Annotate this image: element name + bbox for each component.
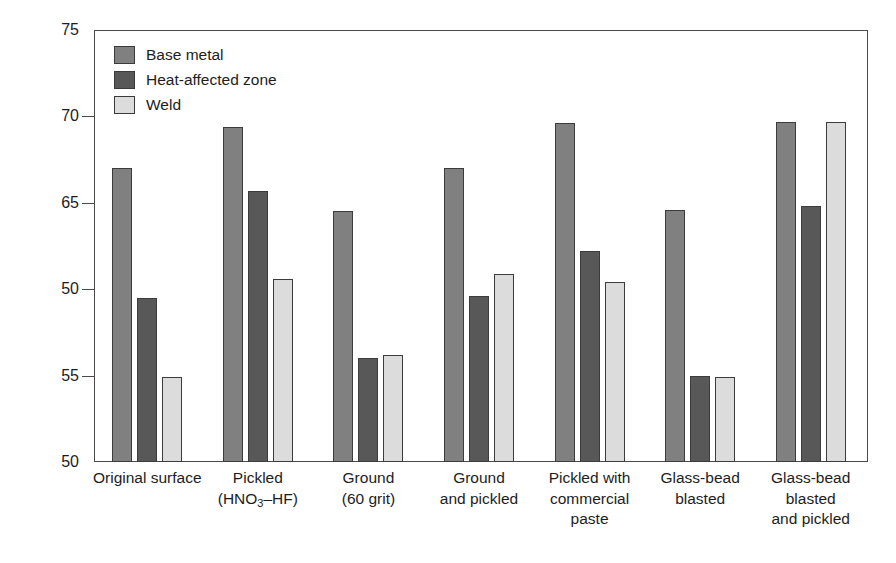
bar bbox=[273, 279, 293, 462]
bar bbox=[580, 251, 600, 462]
bar-group bbox=[333, 30, 403, 462]
bar bbox=[555, 123, 575, 462]
bars-layer bbox=[94, 30, 868, 462]
bar bbox=[444, 168, 464, 462]
bar bbox=[358, 358, 378, 462]
bar bbox=[383, 355, 403, 462]
y-axis-tick bbox=[82, 116, 94, 117]
bar bbox=[605, 282, 625, 462]
bar bbox=[690, 376, 710, 462]
bar-group bbox=[665, 30, 735, 462]
x-axis-labels: Original surfacePickled(HNO3–HF)Ground(6… bbox=[94, 468, 868, 560]
bar bbox=[494, 274, 514, 462]
bar-group bbox=[555, 30, 625, 462]
y-axis-tick-label: 55 bbox=[0, 367, 82, 385]
y-axis-tick-label: 50 bbox=[0, 280, 82, 298]
y-axis-tick-label: 70 bbox=[0, 107, 82, 125]
bar bbox=[469, 296, 489, 462]
y-axis-tick-label: 65 bbox=[0, 194, 82, 212]
bar-chart: Critical pitting temperature (°C) 757065… bbox=[0, 0, 896, 563]
bar-group bbox=[112, 30, 182, 462]
y-axis-tick-label: 75 bbox=[0, 21, 82, 39]
bar bbox=[112, 168, 132, 462]
bar bbox=[776, 122, 796, 462]
bar-group bbox=[776, 30, 846, 462]
bar bbox=[715, 377, 735, 462]
bar bbox=[333, 211, 353, 462]
bar bbox=[665, 210, 685, 462]
bar bbox=[223, 127, 243, 462]
bar bbox=[162, 377, 182, 462]
y-axis-tick bbox=[82, 289, 94, 290]
y-axis-tick bbox=[82, 203, 94, 204]
bar bbox=[248, 191, 268, 462]
y-axis-tick-label: 50 bbox=[0, 453, 82, 471]
x-axis-label: Glass-beadblastedand pickled bbox=[736, 468, 886, 530]
bar-group bbox=[444, 30, 514, 462]
bar bbox=[137, 298, 157, 462]
bar-group bbox=[223, 30, 293, 462]
bar bbox=[801, 206, 821, 462]
bar bbox=[826, 122, 846, 462]
y-axis-tick bbox=[82, 376, 94, 377]
